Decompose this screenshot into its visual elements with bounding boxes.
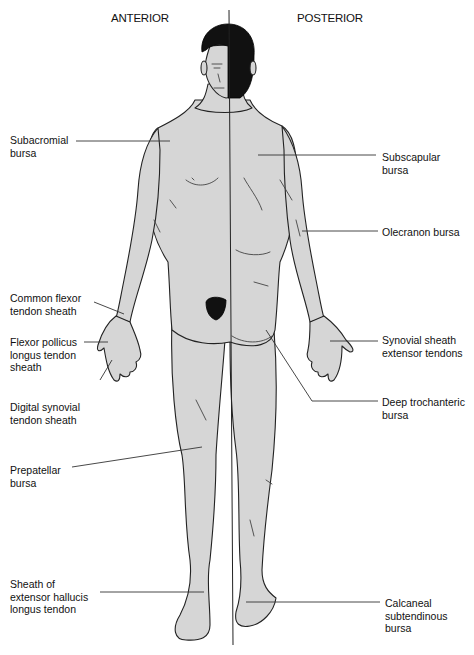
label-flexor-pollicus-longus-tendon-sheath: Flexor pollicus longus tendon sheath [10, 336, 77, 374]
label-subacromial-bursa: Subacromial bursa [10, 134, 68, 159]
posterior-heading: POSTERIOR [297, 12, 363, 24]
posterior-right-hand [307, 316, 353, 381]
ear-left [201, 61, 207, 75]
label-deep-trochanteric-bursa: Deep trochanteric bursa [382, 396, 465, 421]
posterior-right-leg [230, 330, 276, 626]
label-common-flexor-tendon-sheath: Common flexor tendon sheath [10, 292, 81, 317]
anterior-left-arm [116, 128, 160, 322]
anatomical-figure [0, 0, 474, 655]
label-synovial-sheath-extensor-tendons: Synovial sheath extensor tendons [382, 334, 463, 359]
anterior-left-hand [97, 316, 140, 381]
label-prepatellar-bursa: Prepatellar bursa [10, 464, 61, 489]
label-olecranon-bursa: Olecranon bursa [382, 226, 460, 239]
label-digital-synovial-tendon-sheath: Digital synovial tendon sheath [10, 401, 80, 426]
anterior-heading: ANTERIOR [111, 12, 169, 24]
label-sheath-extensor-hallucis-longus-tendon: Sheath of extensor hallucis longus tendo… [10, 578, 88, 616]
label-subscapular-bursa: Subscapular bursa [382, 151, 440, 176]
label-calcaneal-subtendinous-bursa: Calcaneal subtendinous bursa [385, 597, 447, 635]
ear-right [250, 61, 256, 75]
